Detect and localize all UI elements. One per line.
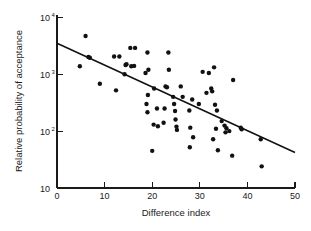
data-point [114, 88, 118, 92]
data-point [145, 50, 149, 54]
data-point [167, 67, 171, 71]
data-point [155, 106, 159, 110]
y-tick-label-100-exp: 2 [52, 126, 56, 132]
data-point [259, 164, 263, 168]
data-point [204, 91, 208, 95]
data-point [122, 72, 126, 76]
data-point [197, 102, 201, 106]
data-point [230, 153, 234, 157]
data-point [223, 130, 227, 134]
data-point [188, 145, 192, 149]
x-axis-title: Difference index [142, 207, 211, 218]
y-tick-label-10000-base: 10 [40, 13, 50, 23]
data-point [259, 137, 263, 141]
data-point [165, 85, 169, 89]
data-point [180, 95, 184, 99]
data-point [214, 127, 218, 131]
axes-group [57, 15, 295, 188]
data-point [227, 129, 231, 133]
regression-line [57, 43, 295, 152]
y-tick-label-1000-base: 10 [40, 70, 50, 80]
y-tick-label-1000-exp: 3 [52, 69, 56, 75]
scatter-plot: 10 4 10 3 10 2 10 0 10 20 30 40 50 Diffe… [0, 0, 311, 231]
data-point [152, 86, 156, 90]
data-point [78, 64, 82, 68]
figure-container: 10 4 10 3 10 2 10 0 10 20 30 40 50 Diffe… [0, 0, 311, 231]
data-point [150, 149, 154, 153]
data-point [212, 65, 216, 69]
data-point [151, 122, 155, 126]
x-tick-labels: 0 10 20 30 40 50 [54, 191, 300, 201]
data-point [207, 71, 211, 75]
y-tick-label-10-base: 10 [40, 184, 50, 194]
data-points-layer [78, 34, 264, 169]
data-point [146, 67, 150, 71]
x-tick-label-20: 20 [147, 191, 157, 201]
data-point [161, 121, 165, 125]
data-point [216, 148, 220, 152]
data-point [173, 117, 177, 121]
data-point [210, 89, 214, 93]
data-point [144, 102, 148, 106]
data-point [117, 54, 121, 58]
data-point [172, 102, 176, 106]
data-point [231, 78, 235, 82]
x-tick-label-30: 30 [195, 191, 205, 201]
data-point [133, 46, 137, 50]
data-point [213, 103, 217, 107]
data-point [83, 34, 87, 38]
data-point [124, 62, 128, 66]
x-ticks-group [57, 182, 295, 188]
y-tick-label-100-base: 10 [40, 127, 50, 137]
data-point [156, 124, 160, 128]
data-point [211, 137, 215, 141]
x-tick-label-40: 40 [242, 191, 252, 201]
data-point [215, 108, 219, 112]
regression-line-layer [57, 43, 295, 152]
x-tick-label-50: 50 [290, 191, 300, 201]
data-point [239, 127, 243, 131]
data-point [190, 97, 194, 101]
data-point [132, 64, 136, 68]
data-point [219, 119, 223, 123]
data-point [171, 95, 175, 99]
data-point [88, 55, 92, 59]
data-point [145, 110, 149, 114]
x-tick-label-0: 0 [54, 191, 59, 201]
data-point [191, 135, 195, 139]
data-point [179, 84, 183, 88]
data-point [175, 128, 179, 132]
y-axis-title: Relative probability of acceptance [13, 30, 24, 172]
data-point [162, 106, 166, 110]
data-point [200, 70, 204, 74]
data-point [146, 93, 150, 97]
y-tick-label-10000-exp: 4 [52, 12, 56, 18]
y-tick-labels: 10 4 10 3 10 2 10 [40, 12, 56, 194]
data-point [98, 82, 102, 86]
data-point [128, 46, 132, 50]
data-point [188, 125, 192, 129]
data-point [187, 108, 191, 112]
data-point [112, 54, 116, 58]
x-tick-label-10: 10 [100, 191, 110, 201]
data-point [166, 50, 170, 54]
data-point [173, 109, 177, 113]
